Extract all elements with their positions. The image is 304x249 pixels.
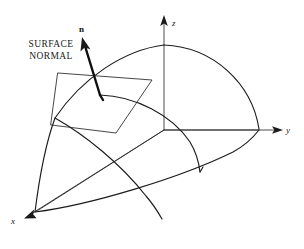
y-axis-label: y [285,125,290,135]
surface-normal-vector [81,37,104,100]
meridian-arc-right [164,45,259,129]
normal-vector-shaft [85,46,100,95]
z-axis-label: z [171,18,176,28]
arc-junction-connector [200,167,203,172]
spherical-surface-patch [35,45,259,219]
equator-arc-lower [35,130,259,212]
figure-canvas: z y x n SURFACE NORMAL [0,0,304,249]
normal-vector-base-tick [100,95,103,100]
x-axis-label: x [10,216,15,226]
normal-vector-label: n [79,24,84,34]
axis-group [24,15,283,219]
latitude-arc-outer [55,118,162,219]
surface-normal-diagram: z y x n [0,0,304,249]
meridian-arc-left [35,45,164,212]
